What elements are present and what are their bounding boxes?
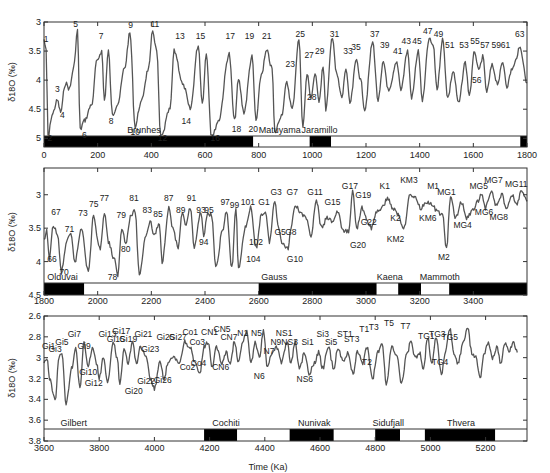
isotope-stage-label: 1 xyxy=(44,34,49,44)
x-tick-label: 2200 xyxy=(141,296,161,306)
isotope-stage-label: 95 xyxy=(204,205,214,215)
isotope-stage-label: Gi22 xyxy=(137,376,155,386)
d18o-curve xyxy=(44,30,527,136)
isotope-stage-label: 41 xyxy=(393,46,403,56)
y-tick-label: 3.5 xyxy=(28,223,41,233)
isotope-stage-label: 47 xyxy=(423,26,433,36)
chron-label: Sidufjall xyxy=(372,418,404,428)
isotope-stage-label: 85 xyxy=(153,209,163,219)
y-tick-label: 5 xyxy=(36,133,41,143)
isotope-stage-label: KM6 xyxy=(419,213,437,223)
isotope-stage-label: Gi26 xyxy=(154,375,172,385)
isotope-stage-label: N5 xyxy=(251,328,262,338)
isotope-stage-label: CN6 xyxy=(212,362,229,372)
isotope-stage-label: 53 xyxy=(459,40,469,50)
polarity-segment xyxy=(237,429,289,441)
isotope-stage-label: MG8 xyxy=(490,212,509,222)
isotope-stage-label: 61 xyxy=(501,40,511,50)
isotope-stage-label: 15 xyxy=(196,31,206,41)
isotope-stage-label: Si5 xyxy=(325,337,338,347)
isotope-stage-label: 66 xyxy=(47,254,57,264)
isotope-stage-label: Gi7 xyxy=(68,329,82,339)
y-tick-label: 2.8 xyxy=(28,332,41,342)
chron-label: Gauss xyxy=(261,272,288,282)
isotope-stage-label: G20 xyxy=(350,240,366,250)
y-axis-label-2: δ18O (‰) xyxy=(7,212,17,252)
polarity-segment xyxy=(334,429,375,441)
polarity-segment xyxy=(253,136,309,147)
isotope-stage-label: Gi10 xyxy=(79,367,97,377)
isotope-stage-label: 19 xyxy=(245,31,255,41)
y-tick-label: 3.4 xyxy=(28,394,41,404)
isotope-stage-label: 79 xyxy=(117,210,127,220)
isotope-stage-label: 23 xyxy=(286,59,296,69)
polarity-segment xyxy=(44,429,204,441)
isotope-stage-label: K1 xyxy=(380,181,391,191)
isotope-stage-label: 16 xyxy=(210,133,220,143)
isotope-stage-label: 70 xyxy=(59,267,69,277)
isotope-stage-label: 77 xyxy=(100,193,110,203)
y-tick-label: 3.6 xyxy=(28,415,41,425)
polarity-segment xyxy=(259,283,377,295)
isotope-stage-label: T3 xyxy=(369,322,379,332)
isotope-stage-label: G3 xyxy=(270,187,282,197)
isotope-stage-label: MG11 xyxy=(505,179,528,189)
x-tick-label: 1800 xyxy=(517,150,537,160)
x-tick-label: 4000 xyxy=(144,443,164,453)
x-tick-label: 3800 xyxy=(89,443,109,453)
x-tick-label: 5200 xyxy=(476,443,496,453)
y-tick-label: 4.5 xyxy=(28,104,41,114)
x-tick-label: 400 xyxy=(144,150,159,160)
isotope-stage-label: 83 xyxy=(143,205,153,215)
isotope-stage-label: 12 xyxy=(158,133,168,143)
isotope-stage-label: 59 xyxy=(491,40,501,50)
isotope-stage-label: 6 xyxy=(82,130,87,140)
isotope-stage-label: N6 xyxy=(254,371,265,381)
y-tick-label: 3 xyxy=(36,190,41,200)
x-tick-label: 600 xyxy=(197,150,212,160)
polarity-segment xyxy=(449,283,527,295)
isotope-stage-label: 45 xyxy=(412,36,422,46)
isotope-stage-label: N9 xyxy=(270,337,281,347)
polarity-segment xyxy=(400,429,425,441)
x-tick-label: 2400 xyxy=(195,296,215,306)
polarity-segment xyxy=(84,283,258,295)
chron-label: Gilbert xyxy=(61,418,88,428)
polarity-segment xyxy=(44,136,253,147)
polarity-segment xyxy=(398,283,421,295)
isotope-stage-label: Gi9 xyxy=(77,341,91,351)
isotope-stage-label: 57 xyxy=(480,40,490,50)
isotope-stage-label: 78 xyxy=(108,272,118,282)
isotope-stage-label: TG5 xyxy=(441,332,458,342)
chron-label: Mammoth xyxy=(420,272,460,282)
isotope-stage-label: 20 xyxy=(249,124,259,134)
isotope-stage-label: 9 xyxy=(128,20,133,30)
isotope-stage-label: 27 xyxy=(304,50,314,60)
isotope-stage-label: K2 xyxy=(390,213,401,223)
isotope-stage-label: Gi21 xyxy=(134,329,152,339)
isotope-stage-label: N1 xyxy=(237,328,248,338)
y-tick-label: 2.6 xyxy=(28,311,41,321)
isotope-stage-label: G15 xyxy=(324,197,340,207)
isotope-stage-label: 80 xyxy=(121,244,131,254)
isotope-stage-label: G10 xyxy=(287,254,303,264)
isotope-stage-label: 35 xyxy=(351,42,361,52)
isotope-stage-label: 14 xyxy=(181,116,191,126)
panel-3: 3600380040004200440046004800500052002.62… xyxy=(28,311,527,453)
x-tick-label: 200 xyxy=(90,150,105,160)
isotope-stage-label: 81 xyxy=(129,193,139,203)
polarity-segment xyxy=(425,429,495,441)
isotope-stage-label: 8 xyxy=(109,116,114,126)
y-tick-label: 4 xyxy=(36,257,41,267)
y-tick-label: 3.8 xyxy=(28,436,41,446)
isotope-stage-label: 5 xyxy=(73,19,78,29)
isotope-stage-label: 94 xyxy=(199,237,209,247)
isotope-stage-label: MG7 xyxy=(484,175,503,185)
isotope-stage-label: Co4 xyxy=(191,358,207,368)
isotope-stage-label: Co3 xyxy=(189,337,205,347)
x-tick-label: 1600 xyxy=(463,150,483,160)
isotope-stage-label: 4 xyxy=(60,110,65,120)
isotope-stage-label: 51 xyxy=(445,40,455,50)
y-axis-label-1: δ18O (‰) xyxy=(7,62,17,102)
isotope-stage-label: 10 xyxy=(130,127,140,137)
